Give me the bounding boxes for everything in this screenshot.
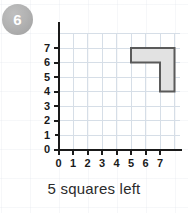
x-tick-label-2: 2 [82, 158, 94, 169]
coordinate-grid-plot: 0 1 2 3 4 5 6 7 0 1 2 3 4 5 6 7 [0, 0, 188, 175]
y-tick-label-2: 2 [38, 115, 50, 126]
worksheet-page: 6 [0, 0, 188, 213]
instruction-caption: 5 squares left [0, 180, 188, 197]
x-tick-label-1: 1 [67, 158, 79, 169]
y-tick-label-0: 0 [38, 144, 50, 155]
plotted-shape [131, 48, 175, 92]
y-tick-label-3: 3 [38, 101, 50, 112]
x-tick-label-6: 6 [140, 158, 152, 169]
x-tick-label-3: 3 [96, 158, 108, 169]
y-tick-label-1: 1 [38, 130, 50, 141]
x-tick-label-7: 7 [154, 158, 166, 169]
plot-svg [0, 0, 188, 175]
y-tick-label-4: 4 [38, 86, 50, 97]
x-tick-label-0: 0 [53, 158, 65, 169]
y-tick-label-5: 5 [38, 72, 50, 83]
y-tick-label-7: 7 [38, 43, 50, 54]
y-tick-label-6: 6 [38, 57, 50, 68]
x-tick-label-5: 5 [125, 158, 137, 169]
x-tick-label-4: 4 [111, 158, 123, 169]
